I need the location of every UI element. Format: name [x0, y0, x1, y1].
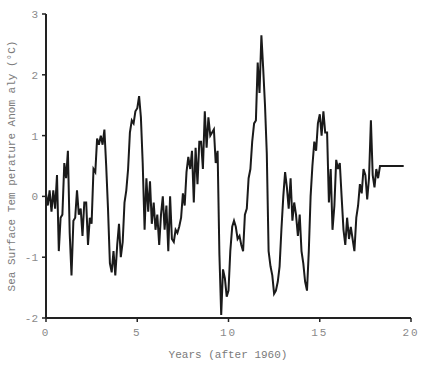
chart-canvas: -2-10123 05101520 Years (after 1960) Sea… — [0, 0, 424, 371]
x-tick-label: 10 — [220, 327, 237, 339]
y-tick-label: 2 — [31, 70, 38, 82]
y-tick-label: 3 — [31, 9, 38, 21]
y-tick-label: -2 — [25, 313, 38, 325]
y-tick-label: 0 — [31, 191, 38, 203]
x-axis-label: Years (after 1960) — [169, 349, 288, 361]
y-tick-label: -1 — [25, 252, 39, 264]
x-tick-label: 5 — [133, 327, 142, 339]
x-tick-label: 0 — [42, 327, 51, 339]
x-ticks: 05101520 — [42, 318, 420, 339]
x-tick-label: 15 — [311, 327, 328, 339]
y-axis-label: Sea Surface Tem perature Anom aly (°C) — [6, 41, 18, 292]
x-tick-label: 20 — [402, 327, 419, 339]
data-line — [46, 35, 404, 315]
sst-anomaly-line — [46, 35, 404, 315]
y-ticks: -2-10123 — [25, 9, 46, 325]
y-tick-label: 1 — [31, 131, 38, 143]
